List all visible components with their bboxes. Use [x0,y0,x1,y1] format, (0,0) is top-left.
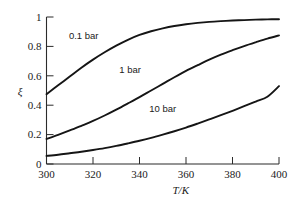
curve-1-bar [47,35,280,139]
x-axis-tick-marks [47,157,280,164]
y-tick-label: 0.6 [28,70,42,82]
y-axis-title: ξ [18,85,23,98]
x-tick-label: 340 [131,168,148,180]
x-tick-label: 380 [224,168,241,180]
y-tick-label: 0.8 [28,40,42,52]
x-tick-label: 300 [38,168,55,180]
y-tick-label: 1 [36,11,42,23]
chart-plot-svg: 00.20.40.60.81 300320340360380400 ξ T/K … [0,0,303,203]
x-tick-label: 360 [178,168,195,180]
x-tick-label: 320 [85,168,102,180]
series-label-10-bar: 10 bar [149,103,176,114]
series-label-0-1-bar: 0.1 bar [69,30,99,41]
y-axis-tick-labels: 00.20.40.60.81 [28,11,42,170]
x-tick-label: 400 [271,168,288,180]
y-tick-label: 0.2 [28,128,42,140]
curve-10-bar [47,86,280,156]
y-tick-label: 0.4 [28,99,42,111]
chart-figure: 00.20.40.60.81 300320340360380400 ξ T/K … [0,0,303,203]
series-label-1-bar: 1 bar [119,64,141,75]
x-axis-tick-labels: 300320340360380400 [38,168,288,180]
x-axis-title: T/K [172,184,189,196]
